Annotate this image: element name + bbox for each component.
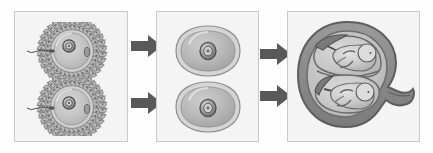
uterus-panel: Two fetuses in the uterus, each in its o… (287, 11, 420, 142)
zygote-top (174, 24, 242, 78)
polar-body (84, 47, 89, 56)
zygote-bottom (174, 80, 242, 134)
fetus-eye-bottom (367, 91, 369, 93)
ovum-bottom (23, 78, 121, 136)
polar-body (84, 104, 89, 113)
uterus (291, 19, 417, 137)
nucleus (200, 99, 216, 116)
figure-title: Dizygotic (fraternal) twin development (0, 0, 1, 1)
nucleus (63, 97, 75, 109)
panel-2-caption: Two separate zygotes (157, 12, 158, 13)
nucleus (200, 42, 216, 59)
panel-3-caption: Two fetuses in the uterus, each in its o… (288, 12, 289, 13)
twin-development-diagram: Dizygotic (fraternal) twin development T… (0, 0, 433, 153)
fetus-eye-top (369, 52, 371, 54)
ovum-top (23, 22, 121, 80)
zygote-panel: Two separate zygotes (156, 11, 259, 142)
fetus-head-bottom (356, 83, 374, 101)
fetus-head-top (358, 44, 376, 62)
fertilization-panel: Two separate ova each fertilized by a sp… (14, 11, 128, 142)
nucleus (63, 40, 75, 52)
panel-1-caption: Two separate ova each fertilized by a sp… (15, 12, 16, 13)
fetus-bottom (315, 75, 379, 113)
